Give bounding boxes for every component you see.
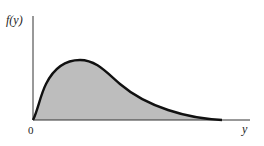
- y-axis-label: f(y): [6, 13, 23, 28]
- x-tick-zero: 0: [28, 124, 34, 136]
- density-chart: [0, 0, 264, 146]
- x-axis-label: y: [242, 122, 247, 137]
